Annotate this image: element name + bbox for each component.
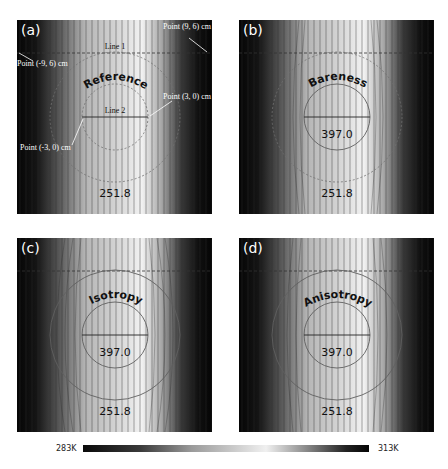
panel-d-anisotropy: (d) Anisotropy 397.0 251.8 — [239, 238, 434, 432]
point-3-0-label: Point (3, 0) cm — [163, 92, 212, 101]
center-value: 397.0 — [99, 346, 131, 359]
colorbar-min-label: 283K — [56, 444, 77, 453]
center-value: 397.0 — [321, 128, 353, 141]
panel-a-reference: (a) Line 1 Line 2 Point (9, 6) cm Point … — [17, 20, 212, 214]
point-neg3-0-label: Point (-3, 0) cm — [20, 143, 71, 152]
line-1-label: Line 1 — [105, 42, 126, 51]
bottom-value: 251.8 — [99, 187, 131, 200]
panel-c-isotropy: (c) Isotropy 397.0 251.8 — [17, 238, 212, 432]
panel-tag: (c) — [21, 240, 40, 256]
panel-b-bareness: (b) Bareness 397.0 251.8 — [239, 20, 434, 214]
colorbar-gradient — [83, 445, 369, 452]
colorbar-max-label: 313K — [378, 444, 399, 453]
line-2-label: Line 2 — [105, 106, 126, 115]
panel-tag: (a) — [21, 22, 41, 38]
bottom-value: 251.8 — [321, 405, 353, 418]
point-9-6-label: Point (9, 6) cm — [163, 22, 212, 31]
point-neg9-6-label: Point (-9, 6) cm — [17, 59, 68, 68]
bottom-value: 251.8 — [321, 187, 353, 200]
panel-tag: (b) — [243, 22, 263, 38]
bottom-value: 251.8 — [99, 405, 131, 418]
colorbar: 283K 313K — [0, 440, 448, 460]
panel-tag: (d) — [243, 240, 263, 256]
center-value: 397.0 — [321, 346, 353, 359]
